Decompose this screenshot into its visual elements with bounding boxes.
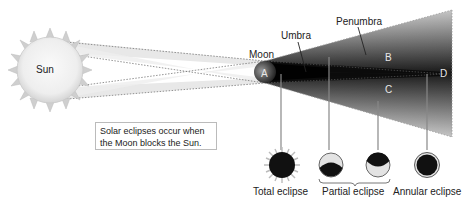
region-b-label: B [385,53,392,63]
region-d-label: D [440,69,447,79]
penumbra-label: Penumbra [336,17,382,27]
sun-label: Sun [36,65,54,75]
eclipse-diagram [0,0,475,206]
annular-eclipse-icon [415,153,440,178]
annular-eclipse-label: Annular eclipse [393,187,461,197]
partial-eclipse-brace [319,179,390,186]
partial-eclipse-label: Partial eclipse [322,187,384,197]
partial-eclipse-bottom-icon [319,153,343,177]
region-c-label: C [385,85,392,95]
note-line-2: the Moon blocks the Sun. [100,137,212,149]
region-a-label: A [261,69,268,79]
total-eclipse-icon [264,147,300,183]
moon-label: Moon [249,50,274,60]
explanation-note: Solar eclipses occur when the Moon block… [95,122,217,150]
partial-eclipse-top-icon [366,152,390,177]
umbra-label: Umbra [281,31,311,41]
note-line-1: Solar eclipses occur when [100,125,212,137]
total-eclipse-label: Total eclipse [253,187,308,197]
